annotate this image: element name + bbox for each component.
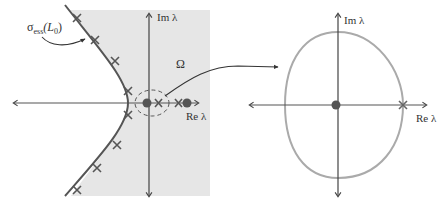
eigenvalue-dot-origin (143, 99, 152, 108)
right-eigenvalue-dot-origin (332, 101, 341, 110)
left-re-label: Re λ (186, 110, 207, 122)
right-im-label: Im λ (344, 14, 365, 26)
left-panel: Im λ Re λ Ω σess(L0) (14, 0, 210, 208)
right-panel: Im λ Re λ (250, 14, 437, 196)
left-im-label: Im λ (157, 11, 178, 23)
right-re-label: Re λ (416, 112, 437, 124)
essential-spectrum-label: σess(L0) (27, 20, 62, 36)
eigenvalue-dot-right (183, 99, 192, 108)
label-pointer-arrow (42, 37, 85, 45)
omega-label: Ω (176, 57, 185, 71)
spectrum-diagram: Im λ Re λ Ω σess(L0) Im λ Re λ (0, 0, 448, 208)
